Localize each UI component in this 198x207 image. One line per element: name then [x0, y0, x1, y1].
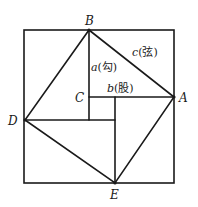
vertex-a-dot	[172, 95, 175, 98]
pythagorean-diagram: B A C D E c(弦) a(勾) b(股)	[0, 0, 198, 207]
label-d: D	[7, 114, 18, 128]
side-label-a: a(勾)	[91, 61, 117, 74]
vertex-d-dot	[23, 118, 26, 121]
label-a: A	[178, 91, 188, 105]
label-e: E	[109, 188, 119, 202]
side-label-b: b(股)	[107, 82, 134, 95]
side-label-c: c(弦)	[132, 45, 158, 59]
vertex-e-dot	[113, 181, 116, 184]
label-c: C	[75, 91, 84, 105]
vertex-b-dot	[87, 28, 90, 31]
label-b: B	[84, 14, 94, 28]
